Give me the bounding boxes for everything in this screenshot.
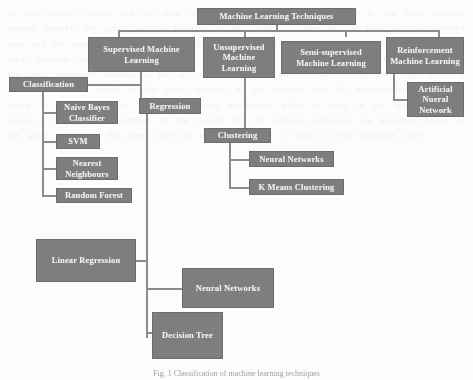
figure-caption: Fig. 1 Classification of machine learnin… xyxy=(0,369,473,378)
connector-reinforcement-ann xyxy=(393,99,407,101)
connector-main-bus xyxy=(118,30,440,32)
connector-classification-random-forest xyxy=(42,195,56,197)
connector-classification-naive-bayes xyxy=(42,112,56,114)
connector-classification-spine xyxy=(42,91,44,196)
node-decision-tree[interactable]: Decision Tree xyxy=(152,312,223,359)
connector-clustering-neural-networks xyxy=(229,159,249,161)
node-k-means-clustering[interactable]: K Means Clustering xyxy=(249,179,344,195)
node-regression[interactable]: Regression xyxy=(139,98,201,114)
node-supervised[interactable]: Supervised Machine Learning xyxy=(88,37,195,72)
node-clustering[interactable]: Clustering xyxy=(204,128,271,143)
node-naive-bayes-classifier[interactable]: Naive Bayes Classifier xyxy=(56,101,118,124)
connector-clustering-spine xyxy=(229,139,231,188)
node-nearest-neighbours[interactable]: Nearest Neighbours xyxy=(56,157,118,180)
connector-drop-supervised xyxy=(118,30,120,37)
node-artificial-neural-network[interactable]: Artificial Nueral Network xyxy=(407,82,464,117)
connector-reinforcement-stem xyxy=(393,74,395,100)
node-root[interactable]: Machine Learning Techniques xyxy=(197,8,356,25)
node-unsupervised[interactable]: Unsupervised Machine Learning xyxy=(203,37,275,78)
connector-classification-nearest-neighbours xyxy=(42,168,56,170)
node-reinforcement[interactable]: Reinforcement Machine Learning xyxy=(386,37,464,74)
connector-unsupervised-clustering xyxy=(244,78,246,128)
node-svm[interactable]: SVM xyxy=(56,134,100,149)
connector-classification-svm xyxy=(42,141,56,143)
connector-clustering-k-means xyxy=(229,187,249,189)
connector-drop-reinforcement xyxy=(438,30,440,37)
connector-regression-spine xyxy=(146,113,148,338)
connector-regression-linear xyxy=(136,260,148,262)
connector-drop-semi-supervised xyxy=(345,30,347,37)
node-linear-regression[interactable]: Linear Regression xyxy=(36,239,136,282)
node-random-forest[interactable]: Random Forest xyxy=(56,188,132,203)
node-cluster-neural-networks[interactable]: Neural Networks xyxy=(249,151,334,167)
node-classification[interactable]: Classification xyxy=(9,77,88,92)
node-regression-neural-networks[interactable]: Neural Networks xyxy=(182,268,274,308)
node-semi-supervised[interactable]: Semi-supervised Machine Learning xyxy=(281,41,381,74)
connector-drop-unsupervised xyxy=(244,30,246,37)
figure-container: of the various classes and the data used… xyxy=(0,0,473,380)
connector-regression-neural-networks xyxy=(146,288,182,290)
connector-supervised-classification xyxy=(88,84,141,86)
